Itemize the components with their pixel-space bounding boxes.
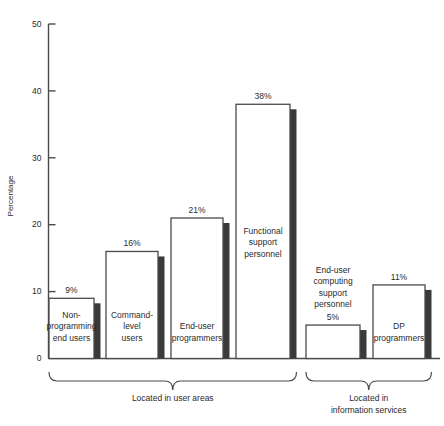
- bar-category-line: personnel: [314, 299, 351, 309]
- group-label-line: Located in user areas: [132, 393, 214, 403]
- bar-category-line: Non-: [62, 310, 81, 320]
- group-brackets-layer: Located in user areasLocated ininformati…: [49, 372, 432, 415]
- group-bracket-1: Located ininformation services: [306, 372, 432, 415]
- bracket-path-1: [306, 372, 432, 390]
- bar-chart-figure: 01020304050 Percentage 9%Non-programming…: [0, 0, 444, 426]
- chart-canvas: 01020304050 Percentage 9%Non-programming…: [0, 0, 444, 426]
- bar-category-label-3: Functionalsupportpersonnel: [243, 226, 282, 259]
- bar-category-line: support: [319, 288, 348, 298]
- group-label-line: Located in: [349, 393, 388, 403]
- bar-group-1[interactable]: 16%Command-levelusers: [106, 238, 165, 358]
- bar-category-line: programmers: [374, 333, 425, 343]
- bar-category-line: users: [122, 333, 143, 343]
- bar-value-label-1: 16%: [123, 238, 140, 248]
- y-tick-label-0: 0: [37, 353, 42, 363]
- bar-category-line: end users: [53, 333, 90, 343]
- bar-group-0[interactable]: 9%Non-programmingend users: [46, 285, 100, 358]
- bars-layer: 9%Non-programmingend users16%Command-lev…: [46, 91, 431, 358]
- y-tick-label-10: 10: [32, 286, 42, 296]
- bar-category-line: End-user: [316, 265, 351, 275]
- bar-value-label-4: 5%: [327, 312, 340, 322]
- bar-category-label-4: End-usercomputingsupportpersonnel: [313, 265, 352, 310]
- group-label-0: Located in user areas: [132, 393, 214, 403]
- bar-group-2[interactable]: 21%End-userprogrammers: [171, 205, 230, 358]
- y-axis-title: Percentage: [6, 175, 15, 216]
- y-axis-tick-labels: 01020304050: [32, 19, 42, 364]
- bar-category-line: support: [249, 237, 278, 247]
- group-label-line: information services: [331, 405, 407, 415]
- y-tick-label-30: 30: [32, 153, 42, 163]
- bracket-path-0: [49, 372, 297, 390]
- bar-category-line: Functional: [243, 226, 282, 236]
- bar-group-4[interactable]: 5%End-usercomputingsupportpersonnel: [306, 265, 367, 359]
- y-axis-ticks: [49, 24, 56, 292]
- bar-rect-4[interactable]: [306, 325, 360, 358]
- bar-category-line: programming: [46, 321, 96, 331]
- bar-category-line: computing: [313, 276, 352, 286]
- y-tick-label-40: 40: [32, 86, 42, 96]
- bar-group-3[interactable]: 38%Functionalsupportpersonnel: [236, 91, 297, 358]
- bar-value-label-2: 21%: [188, 205, 205, 215]
- group-label-1: Located ininformation services: [331, 393, 407, 415]
- bar-category-line: personnel: [244, 249, 281, 259]
- y-tick-label-20: 20: [32, 219, 42, 229]
- bar-value-label-3: 38%: [254, 91, 271, 101]
- bar-category-line: End-user: [180, 321, 215, 331]
- y-axis: 01020304050 Percentage: [6, 19, 56, 364]
- bar-category-line: Command-: [111, 310, 153, 320]
- bar-category-line: DP: [393, 321, 405, 331]
- y-tick-label-50: 50: [32, 19, 42, 29]
- bar-value-label-5: 11%: [391, 272, 408, 282]
- bar-category-line: programmers: [172, 333, 223, 343]
- bar-category-line: level: [123, 321, 141, 331]
- group-bracket-0: Located in user areas: [49, 372, 297, 403]
- bar-group-5[interactable]: 11%DPprogrammers: [373, 272, 432, 359]
- bar-value-label-0: 9%: [65, 285, 78, 295]
